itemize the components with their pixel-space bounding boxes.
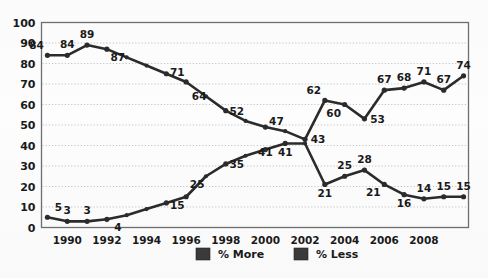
data-point-label: 3 [64,204,71,216]
x-tick-label: 2004 [330,234,359,246]
x-axis-tick-labels: 1990199219941996199820002002200420062008 [53,234,439,246]
data-point-marker [84,219,89,224]
y-tick-label: 80 [20,58,36,71]
data-point-marker [125,55,129,59]
data-point-marker [104,217,109,222]
y-tick-label: 0 [28,222,36,235]
data-point-label: 3 [83,204,90,216]
data-point-marker [223,108,228,113]
data-point-marker [382,88,387,93]
data-point-label: 25 [190,178,205,190]
data-point-label: 25 [337,159,352,171]
data-point-label: 15 [456,180,471,192]
data-point-marker [243,154,247,158]
data-point-marker [362,116,367,121]
data-point-label: 67 [377,73,392,85]
data-point-marker [204,174,208,178]
legend-swatch [294,248,308,260]
data-point-marker [342,102,347,107]
y-tick-label: 30 [20,160,36,173]
data-point-label: 47 [269,115,284,127]
data-point-label: 53 [370,113,385,125]
legend-swatch [196,248,210,260]
data-point-marker [421,196,426,201]
data-point-label: 64 [192,90,207,102]
data-point-marker [65,219,70,224]
data-point-marker [144,63,148,67]
y-tick-label: 60 [20,99,36,112]
data-point-label: 15 [170,199,185,211]
x-tick-label: 1990 [53,234,82,246]
y-tick-label: 50 [20,119,36,132]
data-point-label: 28 [357,153,372,165]
data-point-marker [65,53,70,58]
data-point-label: 71 [170,66,185,78]
x-tick-label: 1992 [92,234,121,246]
data-point-label: 71 [417,65,432,77]
series-line-2 [47,143,463,221]
data-point-label: 41 [278,146,293,158]
data-point-marker [144,207,148,211]
data-point-marker [184,79,189,84]
data-point-label: 15 [436,180,451,192]
x-tick-label: 1996 [172,234,201,246]
data-point-label: 62 [307,84,322,96]
data-point-marker [45,53,50,58]
y-tick-label: 40 [20,140,36,153]
data-point-marker [164,200,169,205]
data-point-label: 87 [111,51,126,63]
data-point-label: 52 [229,105,244,117]
data-point-marker [402,86,407,91]
data-point-marker [461,194,466,199]
data-point-label: 67 [436,73,451,85]
data-point-marker [342,174,347,179]
chart-container: 0102030405060708090100 19901992199419961… [0,0,488,278]
chart-legend: % More% Less [196,248,359,261]
data-point-marker [243,119,247,123]
data-point-labels: 8484898771645247436260536768716774533415… [29,28,471,233]
data-point-label: 84 [29,39,44,51]
legend-label: % Less [316,248,359,261]
data-point-label: 89 [80,28,95,40]
data-point-marker [125,213,129,217]
y-tick-label: 100 [13,17,36,30]
x-tick-label: 1998 [211,234,240,246]
x-tick-label: 2002 [290,234,319,246]
x-tick-label: 2008 [409,234,438,246]
data-point-marker [84,42,89,47]
data-point-label: 16 [397,197,412,209]
data-point-marker [45,215,50,220]
data-point-marker [441,88,446,93]
y-tick-label: 10 [20,201,36,214]
data-point-marker [164,71,169,76]
data-point-label: 60 [326,107,341,119]
data-point-marker [302,137,307,142]
data-point-label: 5 [55,201,62,213]
data-point-marker [303,141,307,145]
data-point-marker [104,47,109,52]
y-tick-label: 70 [20,78,36,91]
data-point-label: 35 [229,158,244,170]
data-point-label: 4 [114,221,121,233]
data-point-marker [322,98,327,103]
data-point-marker [223,161,228,166]
data-point-marker [382,182,387,187]
data-point-label: 41 [258,146,273,158]
data-point-marker [461,73,466,78]
data-point-marker [283,129,287,133]
data-point-marker [263,124,268,129]
data-point-label: 74 [456,59,471,71]
data-point-label: 14 [417,182,432,194]
legend-label: % More [218,248,264,261]
data-point-label: 68 [397,71,412,83]
data-point-label: 21 [318,187,333,199]
data-point-label: 43 [311,133,326,145]
data-point-label: 21 [366,186,381,198]
x-tick-label: 1994 [132,234,161,246]
line-chart: 0102030405060708090100 19901992199419961… [0,0,488,278]
data-point-marker [441,194,446,199]
data-point-marker [362,168,367,173]
x-tick-label: 2006 [370,234,399,246]
x-tick-label: 2000 [251,234,280,246]
data-point-marker [421,79,426,84]
